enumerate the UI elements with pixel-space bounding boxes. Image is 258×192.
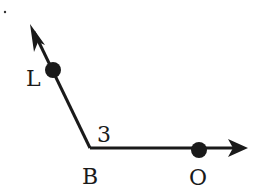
ray-BO [90, 139, 248, 157]
diagram-svg: L 3 B O [0, 0, 258, 192]
label-O: O [189, 165, 207, 190]
point-O [191, 142, 207, 158]
stray-dot [4, 11, 6, 13]
label-angle-3: 3 [97, 122, 111, 147]
point-L [45, 62, 61, 78]
angle-diagram: L 3 B O [0, 0, 258, 192]
label-B: B [82, 164, 98, 189]
label-L: L [26, 66, 41, 91]
